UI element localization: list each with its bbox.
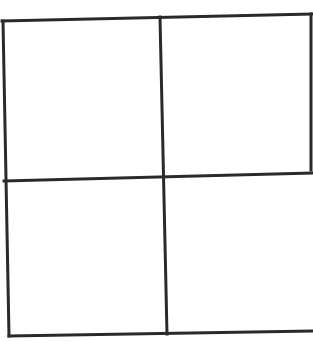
grid-cell-bottom-left bbox=[4, 177, 167, 336]
grid-cell-bottom-right bbox=[163, 173, 313, 334]
grid-drawing bbox=[0, 0, 313, 341]
grid-cell-top-left bbox=[3, 17, 163, 181]
grid-diagram bbox=[0, 0, 313, 341]
grid-cell-top-right bbox=[160, 14, 311, 177]
